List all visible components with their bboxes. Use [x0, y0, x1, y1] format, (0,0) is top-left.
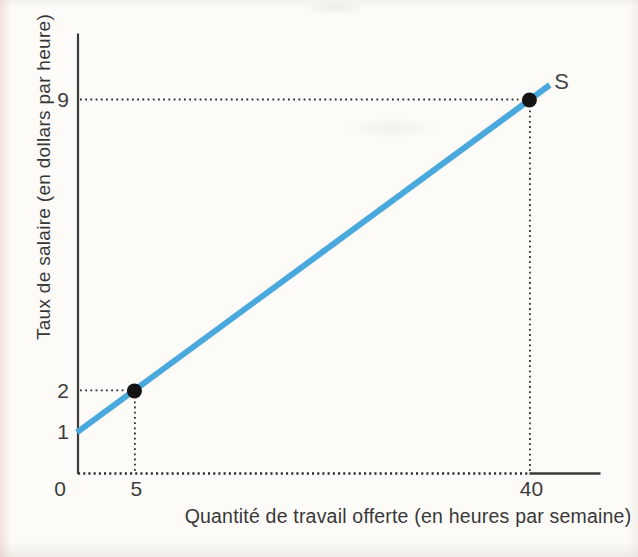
y-axis-title: Taux de salaire (en dollars par heure) [33, 14, 55, 340]
supply-curve-plot [0, 0, 638, 557]
x-tick-label-0: 0 [54, 477, 66, 501]
y-tick-label-1: 1 [57, 420, 69, 444]
figure-canvas: Taux de salaire (en dollars par heure) Q… [0, 0, 638, 557]
x-tick-label-5: 5 [131, 477, 143, 501]
supply-line [77, 85, 550, 432]
x-tick-label-40: 40 [520, 477, 543, 501]
data-point-40-9 [522, 92, 537, 107]
supply-curve-label: S [554, 69, 569, 95]
y-tick-label-2: 2 [57, 379, 69, 403]
data-point-5-2 [127, 383, 142, 398]
y-tick-label-9: 9 [57, 88, 69, 112]
x-axis-title: Quantité de travail offerte (en heures p… [185, 505, 632, 528]
